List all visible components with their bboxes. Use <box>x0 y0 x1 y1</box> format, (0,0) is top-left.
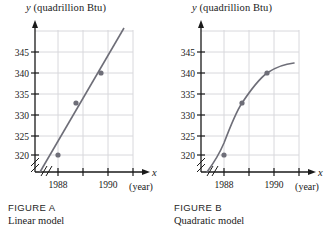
figure-b-quadratic-fit-curve <box>207 63 294 172</box>
figure-b-panel: y (quadrillion Btu) <box>166 0 332 236</box>
figure-b-y-tick-320: 320 <box>181 151 196 161</box>
data-point-1990 <box>98 70 103 75</box>
figure-a-y-tick-340: 340 <box>15 69 30 79</box>
figure-b-caption-subtitle: Quadratic model <box>174 215 244 226</box>
figure-a-x-axis-unit: (year) <box>129 181 153 193</box>
figure-b-y-axis <box>198 20 204 172</box>
data-point-1988 <box>55 152 60 157</box>
figure-a-x-tick-1988: 1988 <box>49 180 68 190</box>
data-point-1989 <box>73 100 78 105</box>
figure-a-panel: y (quadrillion Btu) <box>0 0 166 236</box>
figure-b-y-tick-340: 340 <box>181 69 196 79</box>
figure-b-x-axis-unit: (year) <box>295 181 319 193</box>
figure-b-vertical-gridlines <box>224 30 299 172</box>
figure-a-caption-heading: FIGURE A <box>8 202 56 213</box>
figure-pair: y (quadrillion Btu) <box>0 0 332 236</box>
figure-b-y-tick-325: 325 <box>181 132 196 142</box>
figure-b-x-tick-1988: 1988 <box>215 180 234 190</box>
figure-a-data-points <box>55 70 103 157</box>
data-point-1990 <box>264 70 269 75</box>
figure-b-x-axis-variable: x <box>317 167 323 178</box>
figure-b-y-tick-330: 330 <box>181 111 196 121</box>
figure-b-y-tick-345: 345 <box>181 48 196 58</box>
figure-a-y-tick-345: 345 <box>15 48 30 58</box>
figure-a-y-tick-330: 330 <box>15 111 30 121</box>
data-point-1988 <box>221 152 226 157</box>
figure-a-y-tick-335: 335 <box>15 90 30 100</box>
figure-b-y-tick-335: 335 <box>181 90 196 100</box>
figure-a-linear-fit-line <box>40 28 124 172</box>
figure-a-axis-break-marks <box>31 158 52 176</box>
figure-b-data-points <box>221 70 269 157</box>
figure-a-y-axis <box>32 20 38 172</box>
figure-a-y-tick-325: 325 <box>15 132 30 142</box>
figure-b-plot: 345 340 335 330 325 320 1988 1990 x (yea… <box>166 0 332 200</box>
figure-a-caption-subtitle: Linear model <box>8 215 64 226</box>
figure-b-horizontal-gridlines <box>201 31 299 155</box>
figure-a-x-axis-variable: x <box>151 167 157 178</box>
figure-a-horizontal-gridlines <box>35 31 133 155</box>
figure-a-vertical-gridlines <box>58 30 133 172</box>
figure-a-y-tick-320: 320 <box>15 151 30 161</box>
figure-a-plot: 345 340 335 330 325 320 1988 1990 x (yea… <box>0 0 166 200</box>
figure-b-caption-heading: FIGURE B <box>174 202 222 213</box>
figure-a-x-tick-1990: 1990 <box>99 180 118 190</box>
data-point-1989 <box>239 100 244 105</box>
figure-b-x-tick-1990: 1990 <box>265 180 284 190</box>
